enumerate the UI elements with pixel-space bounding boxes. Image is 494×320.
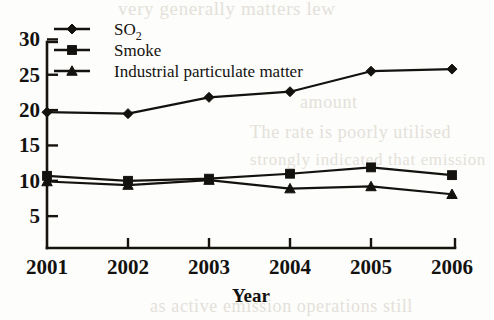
series-line [47,180,452,194]
chart-legend: SO2SmokeIndustrial particulate matter [54,20,303,81]
x-tick-label: 2002 [107,255,149,279]
y-tick-15: 15 [19,133,58,157]
x-tick-2001: 2001 [26,255,68,279]
data-point [204,92,214,102]
series-smoke [43,163,457,185]
data-point [42,107,52,117]
legend-label: Smoke [114,41,161,60]
legend-marker-diamond [67,24,77,34]
y-tick-label: 15 [19,133,40,157]
data-point [123,109,133,119]
line-chart-plot: 51015202530 200120022003200420052006 Yea… [0,0,494,320]
y-tick-label: 10 [19,169,40,193]
x-tick-label: 2001 [26,255,68,279]
y-tick-label: 25 [19,63,40,87]
x-tick-2005: 2005 [350,238,392,279]
x-tick-label: 2005 [350,255,392,279]
chart-container: very generally matters lew amount The ra… [0,0,494,320]
y-tick-25: 25 [19,63,58,87]
data-point [448,171,457,180]
data-point [367,163,376,172]
x-axis-title: Year [232,285,271,306]
legend-entry-smoke: Smoke [54,41,161,60]
data-point [286,169,295,178]
x-tick-2006: 2006 [431,255,473,279]
data-point [285,87,295,97]
y-axis-ticks: 51015202530 [19,27,58,228]
x-tick-label: 2006 [431,255,473,279]
legend-marker-square [68,46,77,55]
data-point [366,66,376,76]
legend-entry-so2: SO2 [54,20,142,43]
x-axis-ticks: 200120022003200420052006 [26,238,473,279]
x-tick-2003: 2003 [188,238,230,279]
legend-entry-industrial-particulate-matter: Industrial particulate matter [54,62,303,81]
data-point [447,64,457,74]
y-tick-30: 30 [19,27,58,51]
y-tick-5: 5 [30,204,59,228]
x-tick-2004: 2004 [269,238,312,279]
x-tick-label: 2004 [269,255,312,279]
legend-label: SO2 [114,20,142,43]
legend-label: Industrial particulate matter [114,62,303,81]
x-tick-label: 2003 [188,255,230,279]
y-tick-label: 30 [19,27,40,51]
series-group [42,64,457,198]
y-tick-label: 20 [19,98,40,122]
x-tick-2002: 2002 [107,238,149,279]
y-tick-label: 5 [30,204,41,228]
series-line [47,167,452,180]
y-tick-20: 20 [19,98,58,122]
